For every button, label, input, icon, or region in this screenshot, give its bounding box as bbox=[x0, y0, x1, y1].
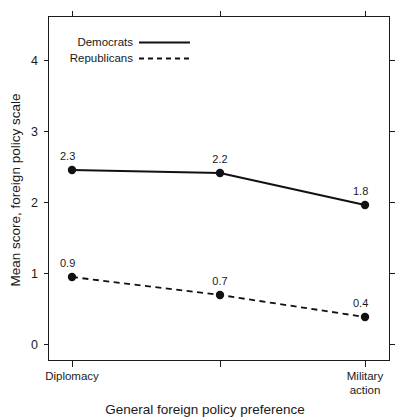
x-axis-category-labels: Diplomacy Military action bbox=[45, 370, 383, 396]
series-democrats: 2.3 2.2 1.8 bbox=[60, 150, 369, 209]
value-label-republicans-military: 0.4 bbox=[353, 297, 368, 309]
data-point-democrats-military bbox=[361, 201, 369, 209]
y-axis-ticks-left bbox=[44, 61, 49, 345]
x-category-label-military-line1: Military bbox=[347, 370, 384, 382]
value-label-republicans-diplomacy: 0.9 bbox=[60, 257, 75, 269]
x-category-label-military-line2: action bbox=[350, 384, 381, 396]
chart-legend: Democrats Republicans bbox=[70, 36, 190, 64]
data-point-democrats-diplomacy bbox=[68, 166, 76, 174]
data-point-republicans-military bbox=[361, 313, 369, 321]
legend-label-democrats: Democrats bbox=[77, 36, 133, 48]
data-point-republicans-diplomacy bbox=[68, 273, 76, 281]
value-label-democrats-diplomacy: 2.3 bbox=[60, 150, 75, 162]
legend-label-republicans: Republicans bbox=[70, 52, 134, 64]
series-republicans: 0.9 0.7 0.4 bbox=[60, 257, 369, 321]
y-axis-tick-labels: 0 1 2 3 4 bbox=[31, 54, 38, 352]
value-label-republicans-middle: 0.7 bbox=[212, 275, 227, 287]
y-tick-label-1: 1 bbox=[31, 267, 38, 281]
data-point-democrats-middle bbox=[216, 169, 224, 177]
x-axis-ticks-top bbox=[73, 11, 366, 17]
x-axis-title: General foreign policy preference bbox=[105, 402, 305, 417]
y-tick-label-3: 3 bbox=[31, 125, 38, 139]
chart-container: 0 1 2 3 4 Diplomacy Military action Gene… bbox=[0, 0, 405, 420]
data-point-republicans-middle bbox=[216, 291, 224, 299]
y-axis-title: Mean score, foreign policy scale bbox=[8, 94, 23, 287]
line-chart: 0 1 2 3 4 Diplomacy Military action Gene… bbox=[0, 0, 405, 420]
y-axis-ticks-right bbox=[390, 61, 395, 345]
value-label-democrats-middle: 2.2 bbox=[212, 153, 227, 165]
x-axis-ticks-bottom bbox=[73, 361, 366, 367]
y-tick-label-0: 0 bbox=[31, 338, 38, 352]
value-label-democrats-military: 1.8 bbox=[353, 185, 368, 197]
y-tick-label-2: 2 bbox=[31, 196, 38, 210]
x-category-label-diplomacy: Diplomacy bbox=[45, 370, 99, 382]
plot-frame bbox=[49, 17, 390, 361]
y-tick-label-4: 4 bbox=[31, 54, 38, 68]
